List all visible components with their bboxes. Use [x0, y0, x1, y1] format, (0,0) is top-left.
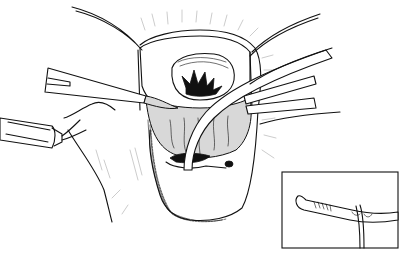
- inset-catheter-detail: [282, 172, 398, 248]
- illustration-canvas: [0, 0, 400, 256]
- suture-upper-left: [72, 7, 142, 50]
- skin-edge-left: [68, 130, 112, 222]
- suture-upper-right: [250, 14, 320, 56]
- surgical-illustration: [0, 0, 400, 256]
- small-opening: [225, 161, 233, 167]
- clamp-left: [0, 118, 86, 148]
- skin-edge-left-upper: [64, 102, 115, 118]
